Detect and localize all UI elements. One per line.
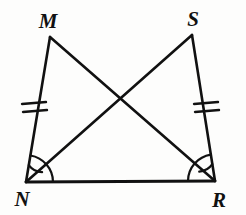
segment-sn — [26, 35, 192, 182]
geometry-figure: M S N R — [0, 0, 246, 215]
segment-nr — [26, 181, 215, 182]
vertex-label-m: M — [39, 11, 58, 32]
vertex-label-s: S — [187, 9, 199, 30]
vertex-label-n: N — [14, 189, 29, 210]
vertex-label-r: R — [212, 190, 226, 211]
tick-marks-mn — [22, 102, 47, 112]
geometry-canvas — [0, 0, 246, 215]
segment-mr — [50, 37, 215, 181]
segment-sr — [192, 35, 215, 181]
tick-marks-sr — [194, 102, 219, 112]
